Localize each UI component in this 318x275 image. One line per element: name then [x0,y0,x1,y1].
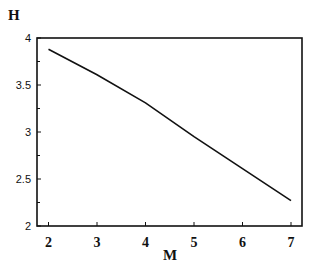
chart: 22.533.54 234567 H M [0,0,318,275]
data-line [49,49,292,200]
x-tick-label: 4 [142,235,149,250]
x-tick-label: 5 [191,235,198,250]
y-tick-label: 3.5 [16,79,31,91]
x-axis-label: M [163,247,177,263]
x-tick-label: 2 [45,235,52,250]
y-axis-label: H [8,7,20,23]
y-axis-ticks: 22.533.54 [16,32,41,232]
y-tick-label: 2.5 [16,173,31,185]
plot-frame [37,38,302,226]
x-tick-label: 3 [94,235,101,250]
x-tick-label: 6 [239,235,246,250]
y-tick-label: 2 [25,220,31,232]
y-tick-label: 3 [25,126,31,138]
y-tick-label: 4 [25,32,31,44]
x-tick-label: 7 [288,235,295,250]
